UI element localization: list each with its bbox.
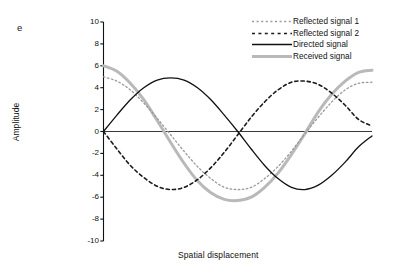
chart-legend: Reflected signal 1 Reflected signal 2 Di…: [252, 16, 392, 62]
legend-swatch-directed-signal: [252, 40, 292, 49]
legend-item-reflected-signal-1: Reflected signal 1: [252, 16, 392, 28]
legend-swatch-received-signal: [252, 52, 292, 61]
legend-item-directed-signal: Directed signal: [252, 39, 392, 51]
series-line-received-signal: [104, 66, 373, 201]
legend-item-reflected-signal-2: Reflected signal 2: [252, 28, 392, 40]
legend-swatch-reflected-signal-1: [252, 17, 292, 26]
legend-label-directed-signal: Directed signal: [292, 40, 348, 49]
legend-label-reflected-signal-1: Reflected signal 1: [292, 17, 359, 26]
legend-item-received-signal: Received signal: [252, 51, 392, 63]
legend-label-reflected-signal-2: Reflected signal 2: [292, 29, 359, 38]
legend-label-received-signal: Received signal: [292, 52, 352, 61]
legend-swatch-reflected-signal-2: [252, 29, 292, 38]
series-layer: [104, 66, 373, 201]
figure-container: e Amplitude Spatial displacement 1086420…: [0, 0, 396, 273]
